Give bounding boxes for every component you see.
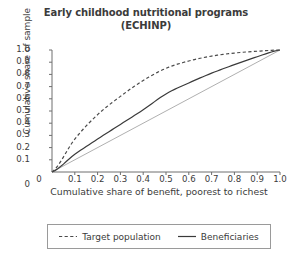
x-origin-label: 0 <box>27 175 51 184</box>
plot-area <box>0 0 292 200</box>
x-tick-label: 0.8 <box>222 175 246 184</box>
x-tick-label: 1.0 <box>268 175 292 184</box>
x-tick-label: 0.1 <box>63 175 87 184</box>
y-tick-label: 0.1 <box>8 155 30 164</box>
y-axis-label: Cumulative share of sample <box>22 0 32 146</box>
x-tick-label: 0.3 <box>108 175 132 184</box>
x-tick-label: 0.6 <box>177 175 201 184</box>
legend-swatch-solid-icon <box>178 233 196 240</box>
chart-figure: Early childhood nutritional programs (EC… <box>0 0 292 258</box>
x-tick-label: 0.2 <box>86 175 110 184</box>
legend-swatch-dashed-icon <box>59 233 77 240</box>
x-axis-label: Cumulative share of benefit, poorest to … <box>30 186 288 197</box>
x-tick-label: 0.7 <box>200 175 224 184</box>
series-line-equality <box>52 50 280 172</box>
legend-label-target-population: Target population <box>82 232 161 242</box>
x-tick-label: 0.4 <box>131 175 155 184</box>
x-tick-label: 0.9 <box>245 175 269 184</box>
legend-item-beneficiaries: Beneficiaries <box>178 232 259 242</box>
legend-label-beneficiaries: Beneficiaries <box>201 232 259 242</box>
legend-item-target-population: Target population <box>59 232 161 242</box>
x-tick-label: 0.5 <box>154 175 178 184</box>
chart-legend: Target population Beneficiaries <box>47 224 271 249</box>
